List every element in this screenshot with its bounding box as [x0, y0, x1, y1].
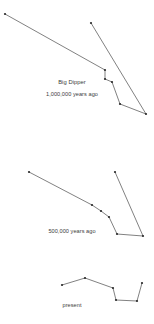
panel-1000000-years-ago: Big Dipper 1,000,000 years ago: [4, 13, 147, 115]
star-point: [112, 287, 114, 289]
star-point: [141, 282, 143, 284]
star-point: [91, 204, 93, 206]
star-point: [119, 103, 121, 105]
panel-500000-years-ago: 500,000 years ago: [28, 171, 144, 237]
star-point: [104, 69, 106, 71]
panel-2-caption: 500,000 years ago: [48, 228, 95, 234]
constellation-lines-panel-2: [29, 172, 143, 236]
panel-1-title: Big Dipper: [58, 79, 86, 85]
star-point: [4, 13, 6, 15]
constellation-lines-panel-3: [62, 278, 142, 301]
star-point: [114, 171, 116, 173]
star-point: [61, 284, 63, 286]
panel-3-caption: present: [62, 302, 81, 308]
star-point: [145, 113, 147, 115]
big-dipper-diagram: Big Dipper 1,000,000 years ago 500,000 y…: [0, 0, 154, 324]
star-point: [104, 78, 106, 80]
star-point: [100, 210, 102, 212]
diagram-container: Big Dipper 1,000,000 years ago 500,000 y…: [0, 0, 154, 324]
panel-1-caption: 1,000,000 years ago: [46, 91, 98, 97]
star-point: [84, 277, 86, 279]
star-point: [111, 81, 113, 83]
star-point: [142, 235, 144, 237]
star-point: [28, 171, 30, 173]
panel-present: present: [61, 277, 143, 308]
star-point: [136, 300, 138, 302]
constellation-lines-panel-1: [5, 14, 146, 114]
star-point: [115, 299, 117, 301]
star-point: [108, 216, 110, 218]
star-point: [116, 233, 118, 235]
star-point: [90, 22, 92, 24]
